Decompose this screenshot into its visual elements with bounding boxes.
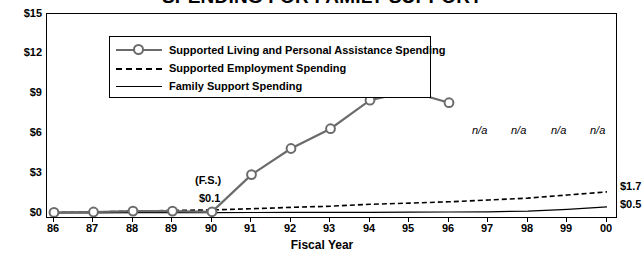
annotation-fs: (F.S.) [195, 174, 221, 186]
y-axis-label-6: $6 [2, 126, 42, 138]
series-supported-living-markers [50, 87, 454, 217]
x-axis-label-91: 91 [237, 222, 263, 234]
legend-swatch-dashed [116, 61, 162, 75]
x-axis-label-96: 96 [435, 222, 461, 234]
legend-item-family-support: Family Support Spending [116, 77, 424, 95]
x-axis-label-92: 92 [277, 222, 303, 234]
legend-item-supported-living: Supported Living and Personal Assistance… [116, 41, 424, 59]
legend-label-supported-living: Supported Living and Personal Assistance… [169, 44, 445, 56]
x-axis-label-97: 97 [474, 222, 500, 234]
x-axis-label-88: 88 [119, 222, 145, 234]
page-title: SPENDING FOR FAMILY SUPPORT [0, 0, 644, 4]
x-axis-label-87: 87 [79, 222, 105, 234]
x-axis-label-99: 99 [553, 222, 579, 234]
chart-container: SPENDING FOR FAMILY SUPPORT $15 $12 $9 $… [0, 0, 644, 261]
y-axis-label-3: $3 [2, 166, 42, 178]
x-axis-label-95: 95 [395, 222, 421, 234]
legend-label-family-support: Family Support Spending [169, 80, 302, 92]
annotation-na-99: n/a [551, 124, 566, 136]
annotation-value-0-1: $0.1 [199, 192, 220, 204]
annotation-na-97: n/a [472, 124, 487, 136]
x-axis-label-89: 89 [158, 222, 184, 234]
y-axis-label-0: $0 [2, 206, 42, 218]
legend-swatch-thin-solid [116, 79, 162, 93]
x-axis-label-94: 94 [356, 222, 382, 234]
series-supported-living-line [54, 92, 449, 213]
x-axis-label-86: 86 [40, 222, 66, 234]
x-axis-label-98: 98 [514, 222, 540, 234]
legend-label-supported-employment: Supported Employment Spending [169, 62, 346, 74]
y-axis-label-9: $9 [2, 86, 42, 98]
x-axis-label-93: 93 [316, 222, 342, 234]
plot-area: Supported Living and Personal Assistance… [46, 13, 617, 218]
x-axis-title: Fiscal Year [0, 238, 644, 252]
legend: Supported Living and Personal Assistance… [109, 36, 431, 98]
y-axis-label-12: $12 [2, 46, 42, 58]
legend-item-supported-employment: Supported Employment Spending [116, 59, 424, 77]
annotation-na-98: n/a [511, 124, 526, 136]
annotation-value-0-5: $0.5 [620, 198, 641, 210]
legend-swatch-solid-circle [116, 43, 162, 57]
x-axis-label-00: 00 [593, 222, 619, 234]
annotation-na-00: n/a [590, 124, 605, 136]
x-axis-label-90: 90 [198, 222, 224, 234]
annotation-value-1-7: $1.7 [620, 180, 641, 192]
y-axis-label-15: $15 [2, 7, 42, 19]
